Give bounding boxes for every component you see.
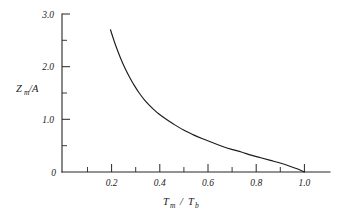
x-tick-label-0.4: 0.4	[154, 178, 166, 188]
x-tick-label-0.6: 0.6	[202, 178, 214, 188]
x-axis-title-main2: T	[188, 196, 195, 207]
y-axis-title-rest: /A	[28, 83, 39, 94]
chart-figure: 3.0 2.0 1.0 0 0.2 0.4 0.6 0.8 1.0 Z m /A…	[0, 0, 362, 215]
x-tick-label-0.2: 0.2	[106, 178, 118, 188]
chart-plot-area: 3.0 2.0 1.0 0 0.2 0.4 0.6 0.8 1.0 Z m /A…	[0, 0, 362, 215]
y-axis-title: Z m /A	[16, 83, 39, 97]
x-tick-label-1.0: 1.0	[298, 178, 310, 188]
x-axis-title: T m / T b	[163, 196, 199, 210]
y-tick-label-2.0: 2.0	[42, 62, 54, 72]
y-tick-label-1.0: 1.0	[42, 115, 54, 125]
x-tick-label-0.8: 0.8	[250, 178, 262, 188]
y-axis-title-main: Z	[16, 83, 22, 94]
x-axis-title-sub1: m	[170, 201, 176, 210]
data-curve-zm-a	[110, 30, 304, 172]
y-tick-label-3.0: 3.0	[41, 10, 54, 20]
x-axis-title-slash: /	[179, 196, 184, 207]
x-axis-title-sub2: b	[195, 201, 199, 210]
y-tick-label-0: 0	[51, 168, 56, 178]
x-axis-title-main1: T	[163, 196, 170, 207]
